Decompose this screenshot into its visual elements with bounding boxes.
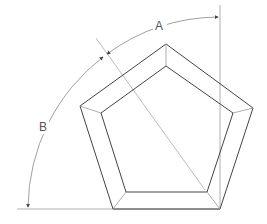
bevel-lines [80, 44, 253, 209]
angle-b-label: B [39, 120, 47, 134]
outer-pentagon [80, 44, 253, 209]
angle-a-label: A [155, 19, 163, 33]
inner-pentagon [101, 66, 233, 192]
pentagon-angle-diagram: A B [0, 0, 267, 224]
